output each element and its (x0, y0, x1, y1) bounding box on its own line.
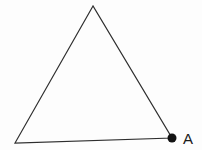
diagram-background (0, 0, 202, 150)
triangle-figure-svg: A (0, 0, 202, 150)
vertex-point-dot (168, 134, 177, 143)
vertex-label-a: A (183, 130, 193, 147)
geometry-diagram: A (0, 0, 202, 150)
